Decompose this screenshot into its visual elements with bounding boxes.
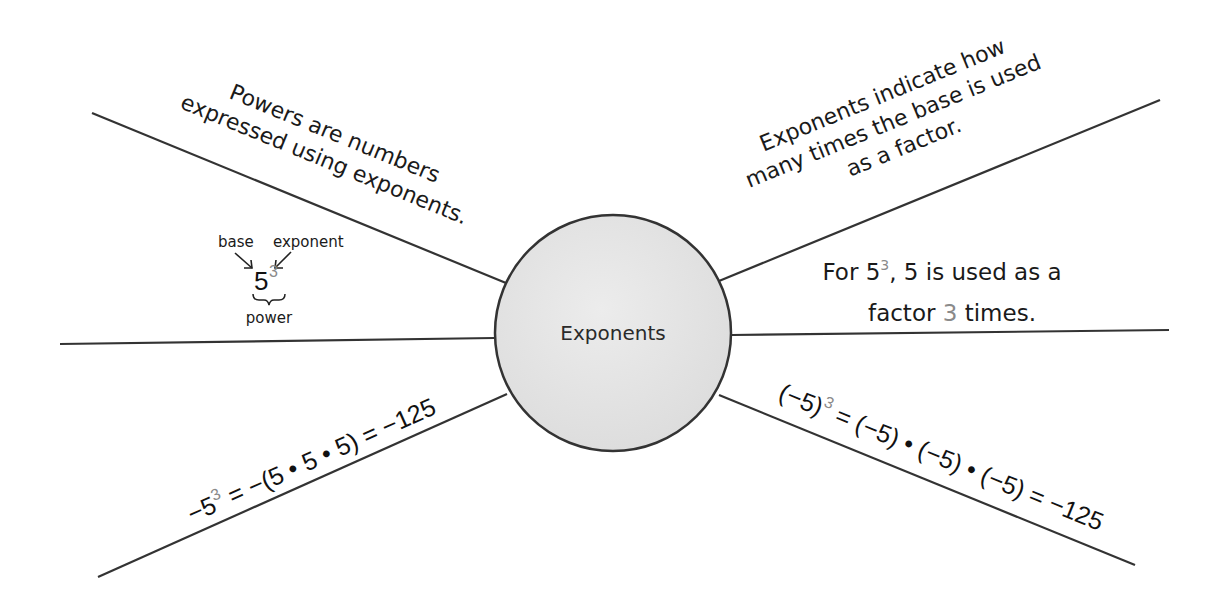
exponent-label: exponent <box>273 233 344 251</box>
center-label: Exponents <box>560 321 665 345</box>
power-annotation: base exponent 5 3 power <box>218 233 344 327</box>
power-label: power <box>246 309 293 327</box>
spoke-lower-right <box>719 395 1135 565</box>
middle-right-suffix: , 5 is used as a <box>889 259 1061 285</box>
lower-left-equation: −53 = −(5 • 5 • 5) = −125 <box>182 390 440 527</box>
middle-right-note: For 53, 5 is used as a factor 3 times. <box>822 257 1061 326</box>
svg-text:(−5)3 = (−5) • (−5) • (−5) = −: (−5)3 = (−5) • (−5) • (−5) = −125 <box>775 376 1108 536</box>
exponents-concept-map: Exponents Powers are numbers expressed u… <box>0 0 1221 614</box>
upper-right-note: Exponents indicate how many times the ba… <box>731 23 1055 218</box>
lower-right-base: (−5) <box>775 378 827 421</box>
middle-right-exp: 3 <box>880 257 889 273</box>
lower-right-rhs: = (−5) • (−5) • (−5) = −125 <box>825 398 1108 535</box>
spoke-middle-right <box>732 330 1169 335</box>
middle-right-line2-suffix: times. <box>957 300 1036 326</box>
middle-right-prefix: For 5 <box>822 259 880 285</box>
power-base: 5 <box>254 266 268 296</box>
base-label: base <box>218 233 254 251</box>
middle-right-line2-prefix: factor <box>868 300 943 326</box>
lower-left-rhs: = −(5 • 5 • 5) = −125 <box>217 392 440 512</box>
svg-text:For 53, 5 is used as a: For 53, 5 is used as a <box>822 257 1061 285</box>
svg-text:−53 = −(5 • 5 • 5) = −125: −53 = −(5 • 5 • 5) = −125 <box>182 390 440 527</box>
base-arrow-icon <box>235 253 252 268</box>
power-exponent: 3 <box>269 263 278 280</box>
spoke-lower-left <box>98 394 507 577</box>
lower-right-equation: (−5)3 = (−5) • (−5) • (−5) = −125 <box>775 376 1108 536</box>
middle-right-line2-num: 3 <box>943 300 958 326</box>
svg-text:factor 3 times.: factor 3 times. <box>868 300 1036 326</box>
upper-left-note: Powers are numbers expressed using expon… <box>177 63 482 229</box>
spoke-middle-left <box>60 338 494 344</box>
